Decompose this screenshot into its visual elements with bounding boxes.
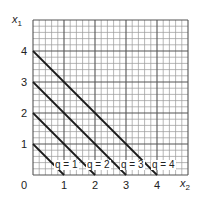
x-tick-label: 2 <box>92 180 98 191</box>
y-tick-label: 2 <box>21 108 27 119</box>
y-axis-title: x1 <box>12 14 22 28</box>
y-tick-label: 4 <box>21 46 27 57</box>
isoquant-label-q2: q = 2 <box>86 160 111 170</box>
origin-label: 0 <box>21 180 27 191</box>
y-axis-title-sub: 1 <box>18 19 22 28</box>
y-tick-label: 1 <box>21 139 27 150</box>
x-axis-title-sub: 2 <box>186 183 190 192</box>
x-axis-title: x2 <box>180 178 190 192</box>
x-tick-label: 1 <box>61 180 67 191</box>
isoquant-label-q4: q = 4 <box>151 160 176 170</box>
isoquant-label-q1: q = 1 <box>54 160 79 170</box>
grid-major <box>33 20 188 175</box>
x-tick-label: 4 <box>154 180 160 191</box>
isoquant-label-q3: q = 3 <box>120 160 145 170</box>
grid-minor <box>33 20 188 175</box>
x-tick-label: 3 <box>123 180 129 191</box>
isoquant-diagram <box>0 0 208 205</box>
isoquant-line <box>33 82 126 175</box>
y-tick-label: 3 <box>21 77 27 88</box>
